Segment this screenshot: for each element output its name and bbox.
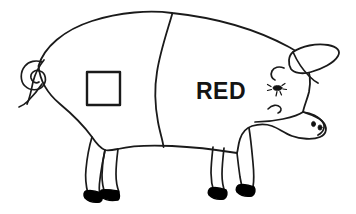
nostril-right [318, 125, 322, 130]
hoof-fore-near [208, 188, 227, 200]
nostril-left [312, 121, 316, 126]
eye [273, 86, 282, 91]
cut-label-red: RED [196, 78, 246, 104]
pig-illustration: RED [0, 0, 356, 214]
pig-diagram-canvas: RED [0, 0, 356, 214]
hoof-fore-far [236, 185, 255, 197]
